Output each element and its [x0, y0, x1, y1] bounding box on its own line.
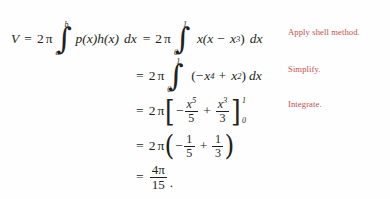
- fraction-1-over-3: 1 3: [212, 133, 223, 159]
- equation-line-3: = 2 π [ − x5 5 + x3 3 ] 1: [136, 94, 246, 128]
- equals-sign-1: =: [24, 32, 32, 46]
- differential-dx-1b: dx: [250, 32, 263, 46]
- equals-sign-1b: =: [143, 32, 151, 46]
- integrand-phx: p(x)h(x): [75, 32, 118, 46]
- equation-derivation-block: V = 2 π b ∫ a p(x)h(x) dx = 2 π 1 ∫ 0 x(…: [0, 0, 280, 199]
- close-paren-line2: ): [241, 69, 246, 83]
- plus-operator-line4: +: [200, 139, 208, 153]
- fraction-numerator: x5: [185, 98, 199, 111]
- fraction-numerator: 1: [184, 133, 194, 146]
- equation-line-5: = 4π 15 .: [136, 163, 173, 191]
- equals-sign-3: =: [136, 104, 144, 118]
- document-page: V = 2 π b ∫ a p(x)h(x) dx = 2 π 1 ∫ 0 x(…: [0, 0, 390, 199]
- coefficient-2-line4: 2: [149, 139, 156, 153]
- annotation-simplify: Simplify.: [288, 64, 321, 74]
- fraction-numerator: x3: [216, 98, 230, 111]
- plus-operator-line3: +: [203, 104, 211, 118]
- equation-line-4: = 2 π ( − 1 5 + 1 3 ): [136, 129, 235, 163]
- integral-sign-ab: b ∫ a: [54, 22, 71, 56]
- evaluated-paren-group: ( − 1 5 + 1 3 ): [164, 129, 235, 163]
- terminal-period: .: [170, 176, 173, 192]
- fraction-x5-over-5: x5 5: [185, 98, 199, 124]
- minus-operator-line1: −: [217, 32, 225, 46]
- equation-line-1: V = 2 π b ∫ a p(x)h(x) dx = 2 π 1 ∫ 0 x(…: [11, 22, 262, 56]
- integral-lower-limit-a: a: [55, 49, 59, 57]
- pi-symbol-5: π: [158, 162, 165, 177]
- open-bracket-line3: [: [165, 99, 175, 124]
- coefficient-2-line2: 2: [149, 69, 156, 83]
- coefficient-2-line3: 2: [149, 104, 156, 118]
- minus-sign-line2: −: [196, 69, 204, 83]
- minus-sign-line3: −: [176, 104, 184, 118]
- integral-lower-limit-0: 0: [174, 49, 178, 57]
- coefficient-2: 2: [37, 32, 44, 46]
- pi-symbol-1: π: [46, 32, 53, 46]
- equals-sign-2: =: [136, 69, 144, 83]
- equals-sign-4: =: [136, 139, 144, 153]
- fraction-denominator: 3: [213, 147, 223, 160]
- fraction-denominator: 5: [186, 112, 196, 125]
- fraction-denominator: 5: [184, 147, 194, 160]
- close-bracket-line3: ]: [231, 99, 241, 124]
- fraction-1-over-5: 1 5: [184, 133, 195, 159]
- open-paren-line4: (: [165, 135, 175, 158]
- evaluation-lower-limit: 0: [242, 117, 246, 125]
- differential-dx-1: dx: [124, 32, 137, 46]
- plus-operator-line2: +: [219, 69, 227, 83]
- fraction-x3-over-3: x3 3: [216, 98, 230, 124]
- fraction-numerator: 1: [213, 133, 223, 146]
- minus-sign-line4: −: [175, 139, 183, 153]
- integral-sign-01-line2: 1 ∫ 0: [166, 59, 183, 93]
- close-paren-line4: ): [225, 135, 235, 158]
- integral-sign-01-line1: 1 ∫ 0: [173, 22, 190, 56]
- pi-symbol-1b: π: [164, 32, 171, 46]
- fraction-denominator: 15: [150, 178, 167, 192]
- antiderivative-bracket-group: [ − x5 5 + x3 3 ] 1 0: [164, 94, 246, 128]
- pi-symbol-3: π: [157, 104, 164, 118]
- final-result-fraction: 4π 15: [150, 163, 167, 191]
- differential-dx-2: dx: [249, 69, 262, 83]
- annotation-integrate: Integrate.: [288, 99, 322, 109]
- evaluation-upper-limit: 1: [242, 97, 246, 105]
- pi-symbol-4: π: [157, 139, 164, 153]
- evaluation-limits: 1 0: [242, 97, 246, 125]
- fraction-numerator: 4π: [150, 163, 167, 177]
- equals-sign-5: =: [136, 170, 144, 184]
- coefficient-2b: 2: [155, 32, 162, 46]
- equation-line-2: = 2 π 1 ∫ 0 (−x4 + x2) dx: [136, 59, 262, 93]
- exponent-5: 5: [192, 95, 196, 105]
- exponent-3: 3: [223, 95, 227, 105]
- fraction-denominator: 3: [218, 112, 228, 125]
- annotation-column: Apply shell method. Simplify. Integrate.: [288, 0, 390, 199]
- pi-symbol-2: π: [157, 69, 164, 83]
- volume-variable: V: [11, 32, 19, 46]
- close-paren-line1: ): [240, 32, 245, 46]
- integrand-x-open: x(x: [197, 32, 213, 46]
- annotation-apply-shell-method: Apply shell method.: [288, 27, 360, 37]
